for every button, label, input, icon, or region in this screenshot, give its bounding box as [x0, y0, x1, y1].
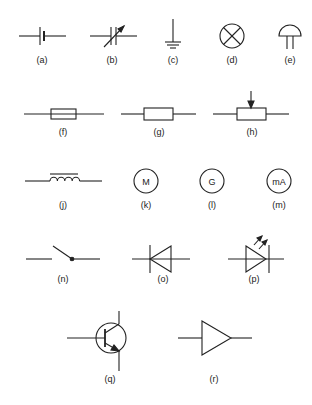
label-c: (c) [168, 55, 179, 65]
label-m: (m) [272, 200, 286, 210]
label-h: (h) [247, 127, 258, 137]
label-e: (e) [285, 55, 296, 65]
label-j: (j) [59, 200, 67, 210]
label-k: (k) [141, 200, 152, 210]
transistor-symbol [67, 311, 126, 371]
label-a: (a) [37, 55, 48, 65]
potentiometer-symbol [213, 91, 289, 120]
label-l: (l) [208, 200, 216, 210]
variable-capacitor-symbol [90, 26, 137, 47]
switch-symbol [26, 246, 100, 261]
label-f: (f) [59, 127, 68, 137]
fuse-symbol [24, 109, 104, 119]
resistor-symbol [121, 108, 196, 120]
label-r: (r) [210, 374, 219, 384]
label-n: (n) [58, 274, 69, 284]
label-q: (q) [105, 374, 116, 384]
milliammeter-letters: mA [272, 177, 286, 187]
label-p: (p) [249, 274, 260, 284]
label-g: (g) [154, 127, 165, 137]
generator-letter: G [208, 177, 215, 187]
label-b: (b) [107, 55, 118, 65]
inductor-symbol [25, 174, 102, 181]
earth-symbol [165, 19, 181, 48]
led-symbol [228, 236, 284, 273]
diode-symbol [132, 245, 190, 273]
label-o: (o) [158, 274, 169, 284]
amplifier-symbol [178, 321, 252, 355]
lamp-symbol [220, 24, 244, 48]
label-d: (d) [227, 55, 238, 65]
motor-letter: M [142, 177, 150, 187]
cell-symbol [19, 27, 66, 45]
microphone-symbol [279, 25, 301, 49]
